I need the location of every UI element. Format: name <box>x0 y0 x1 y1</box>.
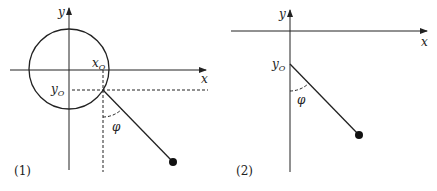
pendulum-bob <box>355 131 363 139</box>
y-origin-label: yO <box>271 57 286 73</box>
y-axis-label: y <box>278 7 286 21</box>
x-origin-label: xO <box>92 56 106 72</box>
figure-2: x y yO φ (2) <box>231 7 428 178</box>
y-origin-label: yO <box>50 82 65 98</box>
angle-arc <box>290 83 309 91</box>
angle-label: φ <box>112 120 121 134</box>
x-axis-label: x <box>421 35 428 49</box>
figure-label: (2) <box>236 164 253 178</box>
angle-label: φ <box>297 93 306 107</box>
angle-arc <box>103 109 122 117</box>
figure-1: x y xO yO φ (1) <box>10 5 208 178</box>
diagram-canvas: x y xO yO φ (1) x y yO φ (2) <box>0 0 437 191</box>
pendulum-bob <box>169 158 177 166</box>
figure-label: (1) <box>14 164 31 178</box>
y-axis-label: y <box>57 5 65 19</box>
x-axis-label: x <box>201 72 208 86</box>
